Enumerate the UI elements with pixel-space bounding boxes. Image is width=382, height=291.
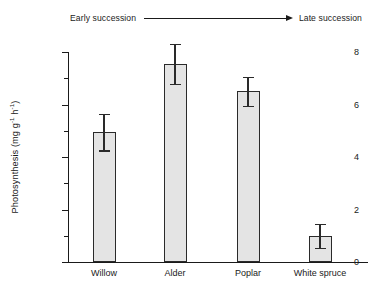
error-bar-cap-upper bbox=[243, 77, 254, 78]
bar-poplar bbox=[237, 91, 260, 262]
x-axis-label-poplar: Poplar bbox=[235, 269, 261, 278]
arrow-shaft bbox=[144, 18, 287, 19]
error-bar-cap-lower bbox=[99, 150, 110, 151]
y-axis-line bbox=[68, 52, 69, 263]
y-axis-title: Photosynthesis (mg g-1 h-1) bbox=[8, 52, 22, 262]
y-axis-tick-label: 4 bbox=[341, 153, 359, 162]
error-bar-cap-lower bbox=[170, 84, 181, 85]
y-axis-tick-major bbox=[62, 157, 68, 158]
plot-area: 02468 WillowAlderPoplarWhite spruce bbox=[68, 52, 368, 262]
y-axis-sup-2: -1 bbox=[8, 104, 15, 110]
early-succession-label: Early succession bbox=[70, 14, 136, 23]
error-bar-cap-upper bbox=[99, 114, 110, 115]
error-bar-cap-lower bbox=[243, 106, 254, 107]
y-axis-tick-minor bbox=[64, 78, 68, 79]
y-axis-tick-minor bbox=[64, 236, 68, 237]
y-axis-tick-label: 0 bbox=[341, 258, 359, 267]
y-axis-tick-label: 8 bbox=[341, 48, 359, 57]
error-bar-cap-upper bbox=[170, 44, 181, 45]
error-bar-cap-upper bbox=[315, 224, 326, 225]
bar-alder bbox=[164, 64, 187, 262]
succession-annotation: Early succession Late succession bbox=[70, 9, 362, 27]
y-axis-tick-label: 2 bbox=[341, 205, 359, 214]
y-axis-tick-minor bbox=[64, 131, 68, 132]
y-axis-tick-major bbox=[62, 105, 68, 106]
x-axis-label-willow: Willow bbox=[91, 269, 117, 278]
y-axis-tick-label: 6 bbox=[341, 100, 359, 109]
y-axis-sup-1: -1 bbox=[8, 117, 15, 123]
error-bar-stem bbox=[319, 224, 320, 248]
x-axis-line bbox=[68, 262, 368, 263]
y-axis-tick-minor bbox=[64, 183, 68, 184]
y-axis-tick-major bbox=[62, 52, 68, 53]
late-succession-label: Late succession bbox=[299, 14, 362, 23]
x-axis-label-white-spruce: White spruce bbox=[294, 269, 347, 278]
error-bar-stem bbox=[103, 114, 104, 151]
error-bar-stem bbox=[174, 44, 175, 83]
y-axis-tick-major bbox=[62, 210, 68, 211]
y-axis-title-text: Photosynthesis (mg g-1 h-1) bbox=[10, 101, 20, 214]
error-bar-stem bbox=[247, 77, 248, 106]
error-bar-cap-lower bbox=[315, 248, 326, 249]
arrow-head bbox=[286, 15, 293, 21]
chart-figure: Early succession Late succession Photosy… bbox=[0, 0, 382, 291]
x-axis-label-alder: Alder bbox=[164, 269, 185, 278]
right-arrow-icon bbox=[142, 14, 293, 22]
y-axis-tick-major bbox=[62, 262, 68, 263]
